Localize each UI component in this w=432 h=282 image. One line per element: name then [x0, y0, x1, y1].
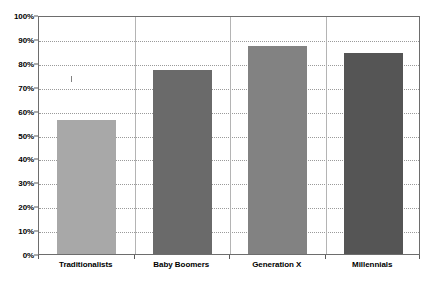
bar-traditionalists [57, 120, 116, 254]
y-tick-label: 20% [18, 203, 34, 212]
bars-layer [39, 17, 419, 254]
bar-generation-x [248, 46, 307, 254]
x-tick-mark [38, 255, 39, 259]
x-tick-mark [229, 255, 230, 259]
y-tick-label: 40% [18, 155, 34, 164]
bar-baby-boomers [153, 70, 212, 254]
x-axis: TraditionalistsBaby BoomersGeneration XM… [38, 260, 420, 274]
x-tick-mark [325, 255, 326, 259]
y-tick-label: 60% [18, 107, 34, 116]
x-tick-mark [134, 255, 135, 259]
y-tick-label: 80% [18, 59, 34, 68]
y-tick-label: 10% [18, 227, 34, 236]
y-tick-label: 100% [14, 12, 34, 21]
y-tick-label: 90% [18, 35, 34, 44]
y-tick-label: 50% [18, 131, 34, 140]
chart-title [6, 0, 426, 4]
bar-millennials [344, 53, 403, 254]
y-tick-label: 30% [18, 179, 34, 188]
y-tick-label: 70% [18, 83, 34, 92]
x-tick-mark [419, 255, 420, 259]
scan-artifact-mark [71, 76, 72, 82]
plot-area [38, 16, 420, 255]
bar-chart: 0%10%20%30%40%50%60%70%80%90%100% Tradit… [0, 0, 432, 282]
x-tick-label: Traditionalists [59, 260, 113, 269]
x-tick-label: Generation X [252, 260, 301, 269]
x-tick-label: Baby Boomers [153, 260, 209, 269]
x-tick-label: Millennials [352, 260, 392, 269]
y-axis: 0%10%20%30%40%50%60%70%80%90%100% [0, 16, 34, 255]
